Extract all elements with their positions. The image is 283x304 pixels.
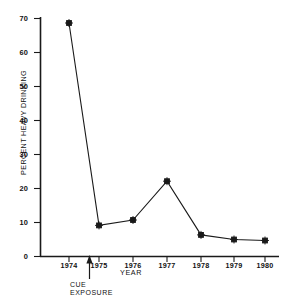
- data-point-1977: [163, 177, 171, 185]
- cue-exposure-arrow-icon: [86, 255, 92, 279]
- chart-figure: PERCENT HEAVY DRINKING 70 60 50 40 30 20…: [0, 0, 283, 304]
- data-point-1974: [65, 19, 73, 27]
- data-point-1980: [261, 237, 269, 245]
- data-line-percent-heavy-drinking: [69, 23, 265, 241]
- data-point-1975: [95, 221, 103, 229]
- y-tick-marks: [34, 19, 40, 257]
- plot-canvas: [0, 0, 283, 304]
- data-point-1979: [230, 236, 238, 244]
- data-point-1978: [197, 231, 205, 239]
- data-point-markers: [65, 19, 269, 245]
- data-point-1976: [129, 216, 137, 224]
